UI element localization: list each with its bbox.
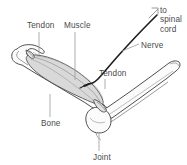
muscle-outline	[26, 55, 103, 105]
joint-lower-detail	[96, 133, 101, 140]
arrow-head	[152, 8, 158, 14]
joint-elbow	[86, 107, 111, 140]
label-nerve: Nerve	[141, 41, 163, 50]
label-to-spinal-cord: to spinal cord	[160, 6, 182, 34]
spinal-cord-arrow	[149, 8, 158, 18]
label-joint: Joint	[93, 153, 111, 162]
label-tendon-left: Tendon	[27, 21, 54, 30]
label-muscle: Muscle	[64, 21, 91, 30]
figure-container: Tendon Muscle to spinal cord Nerve Tendo…	[0, 0, 187, 165]
label-tendon-right: Tendon	[99, 69, 126, 78]
arrow-shaft	[149, 9, 158, 18]
muscle-belly	[26, 55, 103, 105]
joint-capsule	[86, 107, 111, 133]
leader-nerve	[122, 44, 139, 51]
label-bone: Bone	[41, 119, 61, 128]
